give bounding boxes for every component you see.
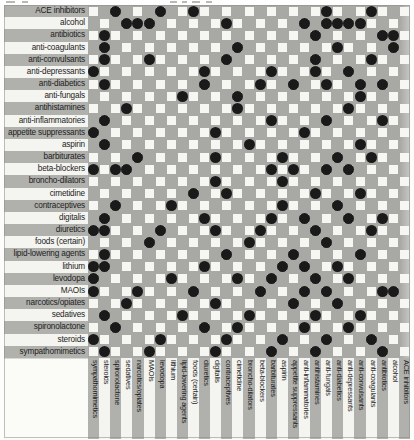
grid-cell[interactable] [211, 335, 220, 344]
grid-cell[interactable] [344, 262, 353, 271]
grid-cell[interactable] [200, 250, 209, 259]
grid-cell[interactable] [278, 67, 287, 76]
grid-cell[interactable] [178, 153, 187, 162]
grid-cell[interactable] [111, 177, 120, 186]
interaction-dot[interactable] [210, 127, 221, 138]
grid-cell[interactable] [378, 104, 387, 113]
interaction-dot[interactable] [232, 322, 243, 333]
grid-cell[interactable] [300, 140, 309, 149]
grid-cell[interactable] [178, 7, 187, 16]
grid-cell[interactable] [222, 128, 231, 137]
interaction-dot[interactable] [99, 310, 110, 321]
grid-cell[interactable] [367, 189, 376, 198]
grid-cell[interactable] [378, 226, 387, 235]
grid-cell[interactable] [133, 31, 142, 40]
grid-cell[interactable] [367, 43, 376, 52]
grid-cell[interactable] [344, 43, 353, 52]
interaction-dot[interactable] [110, 164, 121, 175]
grid-cell[interactable] [189, 214, 198, 223]
grid-cell[interactable] [344, 287, 353, 296]
grid-cell[interactable] [200, 55, 209, 64]
interaction-dot[interactable] [310, 66, 321, 77]
interaction-dot[interactable] [310, 225, 321, 236]
grid-cell[interactable] [156, 323, 165, 332]
interaction-dot[interactable] [99, 225, 110, 236]
interaction-dot[interactable] [255, 286, 266, 297]
interaction-dot[interactable] [343, 273, 354, 284]
interaction-dot[interactable] [266, 66, 277, 77]
grid-cell[interactable] [200, 7, 209, 16]
grid-cell[interactable] [122, 116, 131, 125]
grid-cell[interactable] [311, 177, 320, 186]
interaction-dot[interactable] [299, 127, 310, 138]
grid-cell[interactable] [222, 80, 231, 89]
grid-cell[interactable] [356, 128, 365, 137]
grid-cell[interactable] [245, 177, 254, 186]
grid-cell[interactable] [178, 347, 187, 356]
grid-cell[interactable] [245, 104, 254, 113]
interaction-dot[interactable] [321, 164, 332, 175]
interaction-dot[interactable] [199, 79, 210, 90]
grid-cell[interactable] [100, 238, 109, 247]
grid-cell[interactable] [400, 31, 409, 40]
grid-cell[interactable] [133, 274, 142, 283]
interaction-dot[interactable] [88, 261, 99, 272]
interaction-dot[interactable] [177, 310, 188, 321]
grid-cell[interactable] [278, 19, 287, 28]
grid-cell[interactable] [89, 80, 98, 89]
grid-cell[interactable] [167, 165, 176, 174]
interaction-dot[interactable] [366, 54, 377, 65]
grid-cell[interactable] [233, 214, 242, 223]
grid-cell[interactable] [133, 128, 142, 137]
interaction-dot[interactable] [99, 30, 110, 41]
grid-cell[interactable] [367, 19, 376, 28]
interaction-dot[interactable] [255, 225, 266, 236]
interaction-dot[interactable] [155, 225, 166, 236]
grid-cell[interactable] [367, 92, 376, 101]
interaction-dot[interactable] [99, 54, 110, 65]
grid-cell[interactable] [278, 92, 287, 101]
grid-cell[interactable] [200, 153, 209, 162]
interaction-dot[interactable] [288, 249, 299, 260]
grid-cell[interactable] [156, 274, 165, 283]
grid-cell[interactable] [400, 104, 409, 113]
interaction-dot[interactable] [321, 237, 332, 248]
grid-cell[interactable] [156, 55, 165, 64]
interaction-dot[interactable] [321, 6, 332, 17]
grid-cell[interactable] [167, 140, 176, 149]
grid-cell[interactable] [233, 238, 242, 247]
grid-cell[interactable] [167, 311, 176, 320]
grid-cell[interactable] [222, 201, 231, 210]
interaction-dot[interactable] [144, 18, 155, 29]
grid-cell[interactable] [300, 92, 309, 101]
grid-cell[interactable] [178, 201, 187, 210]
interaction-dot[interactable] [277, 200, 288, 211]
grid-cell[interactable] [245, 274, 254, 283]
interaction-dot[interactable] [355, 310, 366, 321]
interaction-dot[interactable] [177, 91, 188, 102]
grid-cell[interactable] [278, 140, 287, 149]
grid-cell[interactable] [322, 43, 331, 52]
interaction-dot[interactable] [188, 6, 199, 17]
interaction-dot[interactable] [255, 79, 266, 90]
grid-cell[interactable] [211, 19, 220, 28]
interaction-dot[interactable] [288, 298, 299, 309]
interaction-dot[interactable] [88, 164, 99, 175]
grid-cell[interactable] [322, 189, 331, 198]
interaction-dot[interactable] [343, 322, 354, 333]
grid-cell[interactable] [333, 347, 342, 356]
grid-cell[interactable] [400, 299, 409, 308]
grid-cell[interactable] [378, 128, 387, 137]
grid-cell[interactable] [311, 250, 320, 259]
grid-cell[interactable] [278, 189, 287, 198]
grid-cell[interactable] [311, 299, 320, 308]
grid-cell[interactable] [322, 67, 331, 76]
grid-cell[interactable] [311, 153, 320, 162]
grid-cell[interactable] [133, 80, 142, 89]
grid-cell[interactable] [267, 201, 276, 210]
interaction-dot[interactable] [343, 213, 354, 224]
grid-cell[interactable] [256, 67, 265, 76]
grid-cell[interactable] [133, 7, 142, 16]
interaction-dot[interactable] [332, 152, 343, 163]
interaction-dot[interactable] [355, 18, 366, 29]
